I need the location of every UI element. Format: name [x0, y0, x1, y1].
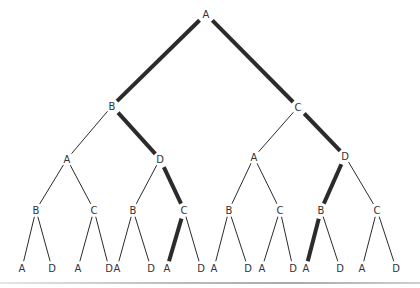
tree-edge [80, 217, 92, 262]
tree-node-a: A [203, 9, 210, 20]
tree-edge [379, 217, 394, 262]
bottom-divider [0, 282, 420, 284]
tree-edge [119, 217, 131, 262]
highlighted-edge [324, 164, 342, 203]
tree-node-b: B [33, 205, 40, 216]
tree-edge [364, 217, 375, 261]
tree-edge [70, 165, 90, 204]
tree-node-c: C [277, 205, 284, 216]
tree-node-c: C [91, 205, 98, 216]
highlighted-edge [169, 219, 181, 262]
tree-node-d: D [289, 263, 297, 274]
tree-node-d: D [336, 263, 344, 274]
tree-node-d: D [105, 263, 113, 274]
tree-node-c: C [295, 102, 302, 113]
tree-edge [264, 217, 278, 262]
tree-edge [135, 217, 149, 262]
tree-node-d: D [156, 154, 164, 165]
highlighted-edge [164, 167, 181, 204]
highlighted-edge [118, 113, 155, 154]
tree-node-d: D [341, 151, 349, 162]
tree-edge [24, 217, 35, 261]
tree-edge [136, 165, 156, 204]
tree-node-b: B [130, 205, 137, 216]
tree-node-d: D [48, 263, 56, 274]
tree-node-d: D [392, 263, 400, 274]
tree-node-a: A [19, 263, 26, 274]
tree-node-a: A [303, 263, 310, 274]
tree-node-b: B [109, 101, 116, 112]
tree-node-a: A [259, 263, 266, 274]
tree-node-c: C [374, 205, 381, 216]
tree-nodes: ABCADADBCBCBCBCADADADADADADADAD [19, 9, 401, 274]
tree-node-b: B [226, 205, 233, 216]
tree-edge [40, 165, 64, 204]
tree-node-a: A [251, 152, 258, 163]
highlighted-edge [117, 20, 200, 101]
highlighted-edge [212, 20, 293, 102]
tree-node-b: B [318, 205, 325, 216]
tree-edge [38, 217, 50, 262]
tree-edges [24, 20, 394, 261]
tree-node-d: D [147, 263, 155, 274]
tree-node-c: C [181, 205, 188, 216]
tree-edge [186, 217, 199, 262]
tree-node-a: A [75, 263, 82, 274]
tree-node-a: A [164, 263, 171, 274]
tree-edge [231, 217, 246, 262]
tree-diagram: ABCADADBCBCBCBCADADADADADADADAD [0, 0, 420, 288]
tree-node-a: A [359, 263, 366, 274]
tree-node-a: A [114, 263, 121, 274]
tree-node-a: A [211, 263, 218, 274]
tree-edge [232, 163, 251, 203]
highlighted-edge [304, 113, 340, 150]
tree-node-a: A [64, 154, 71, 165]
tree-edge [282, 217, 292, 261]
tree-node-d: D [244, 263, 252, 274]
tree-edge [257, 163, 277, 203]
tree-edge [259, 112, 294, 151]
tree-edge [96, 217, 107, 261]
highlighted-edge [308, 219, 319, 262]
tree-node-d: D [197, 263, 205, 274]
tree-edge [72, 111, 108, 153]
tree-edge [349, 162, 374, 204]
tree-edge [323, 217, 338, 262]
tree-edge [216, 217, 227, 261]
